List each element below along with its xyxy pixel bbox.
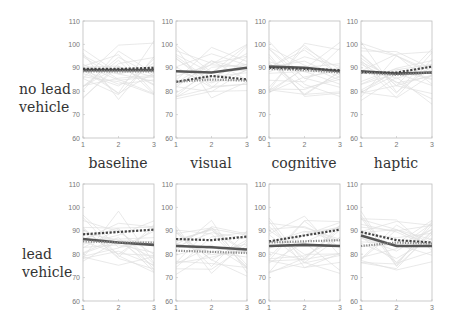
column-label-cognitive: cognitive [259, 155, 349, 171]
y-tick-label: 100 [68, 204, 80, 211]
x-tick-label: 1 [359, 304, 363, 311]
x-tick-label: 2 [210, 141, 214, 148]
y-tick-label: 110 [69, 181, 80, 188]
y-tick-label: 80 [72, 88, 80, 95]
x-tick-label: 3 [245, 141, 249, 148]
row-label-line1: no lead [19, 80, 71, 98]
x-tick-label: 2 [395, 304, 399, 311]
x-tick-label: 1 [267, 304, 271, 311]
axes-box [269, 21, 340, 138]
x-tick-label: 1 [267, 141, 271, 148]
y-tick-label: 90 [72, 227, 80, 234]
y-tick-label: 60 [350, 135, 358, 142]
y-tick-label: 70 [165, 274, 173, 281]
x-tick-label: 3 [338, 304, 342, 311]
y-tick-label: 70 [350, 111, 358, 118]
column-label-haptic: haptic [351, 155, 441, 171]
x-tick-label: 3 [430, 141, 434, 148]
y-tick-label: 60 [350, 298, 358, 305]
x-tick-label: 2 [117, 141, 121, 148]
y-tick-label: 90 [165, 64, 173, 71]
y-tick-label: 110 [162, 181, 173, 188]
y-tick-label: 60 [165, 298, 173, 305]
y-tick-label: 80 [258, 251, 266, 258]
y-tick-label: 110 [255, 181, 266, 188]
y-tick-label: 100 [161, 204, 173, 211]
subplot-baseline-lead: 11010090807060123 [68, 181, 156, 312]
y-tick-label: 60 [165, 135, 173, 142]
x-tick-label: 3 [430, 304, 434, 311]
y-tick-label: 60 [258, 135, 266, 142]
y-tick-label: 100 [346, 204, 358, 211]
y-tick-label: 70 [72, 274, 80, 281]
y-tick-label: 110 [162, 18, 173, 25]
x-tick-label: 3 [152, 141, 156, 148]
y-tick-label: 70 [258, 111, 266, 118]
y-tick-label: 100 [68, 41, 80, 48]
x-tick-label: 1 [174, 304, 178, 311]
row-label-line1: lead [22, 245, 72, 263]
subplot-visual-lead: 11010090807060123 [161, 181, 249, 312]
y-tick-label: 80 [165, 251, 173, 258]
y-tick-label: 100 [254, 41, 266, 48]
x-tick-label: 3 [245, 304, 249, 311]
y-tick-label: 60 [258, 298, 266, 305]
x-tick-label: 1 [174, 141, 178, 148]
mean-line-solid [269, 245, 340, 246]
y-tick-label: 100 [254, 204, 266, 211]
y-tick-label: 60 [72, 298, 80, 305]
column-label-baseline: baseline [73, 155, 163, 171]
y-tick-label: 110 [347, 181, 358, 188]
y-tick-label: 90 [258, 64, 266, 71]
y-tick-label: 110 [69, 18, 80, 25]
y-tick-label: 80 [350, 88, 358, 95]
y-tick-label: 90 [258, 227, 266, 234]
subplot-visual-no-lead: 11010090807060123 [161, 18, 249, 149]
row-label-lead-vehicle: lead vehicle [22, 245, 72, 281]
column-label-visual: visual [166, 155, 256, 171]
y-tick-label: 80 [165, 88, 173, 95]
individual-trace [361, 233, 432, 237]
x-tick-label: 2 [117, 304, 121, 311]
y-tick-label: 100 [161, 41, 173, 48]
y-tick-label: 70 [258, 274, 266, 281]
x-tick-label: 2 [303, 304, 307, 311]
x-tick-label: 2 [303, 141, 307, 148]
x-tick-label: 1 [81, 141, 85, 148]
row-label-no-lead-vehicle: no lead vehicle [19, 80, 71, 116]
y-tick-label: 90 [350, 227, 358, 234]
subplot-haptic-no-lead: 11010090807060123 [346, 18, 434, 149]
x-tick-label: 2 [210, 304, 214, 311]
row-label-line2: vehicle [19, 98, 71, 116]
subplot-baseline-no-lead: 11010090807060123 [68, 18, 156, 149]
y-tick-label: 60 [72, 135, 80, 142]
y-tick-label: 110 [255, 18, 266, 25]
y-tick-label: 90 [350, 64, 358, 71]
y-tick-label: 70 [165, 111, 173, 118]
y-tick-label: 80 [258, 88, 266, 95]
row-label-line2: vehicle [22, 263, 72, 281]
chart-figure: 1101009080706012311010090807060123110100… [0, 0, 455, 327]
x-tick-label: 2 [395, 141, 399, 148]
y-tick-label: 90 [72, 64, 80, 71]
y-tick-label: 110 [347, 18, 358, 25]
y-tick-label: 100 [346, 41, 358, 48]
y-tick-label: 80 [350, 251, 358, 258]
x-tick-label: 3 [152, 304, 156, 311]
subplot-cognitive-no-lead: 11010090807060123 [254, 18, 342, 149]
y-tick-label: 70 [350, 274, 358, 281]
subplot-haptic-lead: 11010090807060123 [346, 181, 434, 312]
mean-line-dashed [83, 230, 154, 235]
x-tick-label: 1 [359, 141, 363, 148]
x-tick-label: 3 [338, 141, 342, 148]
subplot-cognitive-lead: 11010090807060123 [254, 181, 342, 312]
y-tick-label: 70 [72, 111, 80, 118]
x-tick-label: 1 [81, 304, 85, 311]
y-tick-label: 80 [72, 251, 80, 258]
y-tick-label: 90 [165, 227, 173, 234]
